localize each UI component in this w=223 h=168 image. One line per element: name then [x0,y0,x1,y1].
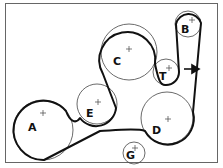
svg-text:B: B [181,23,189,36]
pulley-g: G [123,142,145,164]
svg-text:E: E [86,107,94,120]
svg-text:D: D [152,124,161,137]
svg-text:C: C [113,55,121,68]
serpentine-belt [14,14,201,160]
svg-text:G: G [126,149,135,162]
svg-text:A: A [28,121,37,134]
belt-routing-diagram: A B C D E G T [0,0,223,168]
